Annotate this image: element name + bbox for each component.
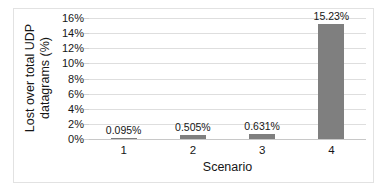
y-axis-tick-mark: [84, 79, 89, 80]
y-axis-tick-mark: [84, 33, 89, 34]
y-axis-tick-mark: [84, 94, 89, 95]
data-label-4: 15.23%: [314, 10, 350, 22]
y-axis-tick-mark: [84, 63, 89, 64]
y-axis-tick-label: 14%: [46, 27, 84, 39]
bar-1: [111, 138, 137, 140]
y-axis-tick-label: 16%: [46, 12, 84, 24]
y-axis-tick-mark: [84, 18, 89, 19]
y-axis-tick-label: 6%: [46, 88, 84, 100]
data-label-2: 0.505%: [175, 121, 211, 133]
y-axis-tick-labels: 0%2%4%6%8%10%12%14%16%: [46, 11, 84, 145]
bar-chart-figure: Lost over total UDP datagrams (%) 0%2%4%…: [0, 0, 387, 196]
bar-2: [180, 135, 206, 139]
y-axis-tick-label: 0%: [46, 133, 84, 145]
bar-3: [249, 134, 275, 139]
plot-area: [89, 18, 366, 139]
y-axis-tick-label: 8%: [46, 73, 84, 85]
x-axis-tick-label: 4: [328, 143, 334, 157]
data-label-1: 0.095%: [106, 124, 142, 136]
y-axis-tick-label: 4%: [46, 103, 84, 115]
x-axis-title: Scenario: [89, 160, 366, 175]
y-axis-tick-label: 12%: [46, 42, 84, 54]
y-axis-tick-mark: [84, 139, 89, 140]
bar-4: [318, 24, 344, 139]
x-axis-tick-label: 1: [120, 143, 126, 157]
y-axis-tick-label: 10%: [46, 57, 84, 69]
data-label-3: 0.631%: [244, 120, 280, 132]
y-axis-tick-mark: [84, 109, 89, 110]
y-axis-title-line-1: Lost over total UDP: [23, 24, 38, 132]
gridline: [89, 139, 366, 140]
y-axis-tick-mark: [84, 48, 89, 49]
x-axis-tick-label: 2: [190, 143, 196, 157]
x-axis-tick-label: 3: [259, 143, 265, 157]
x-axis-tick-labels: 1234: [89, 143, 366, 159]
y-axis-tick-mark: [84, 124, 89, 125]
y-axis-tick-label: 2%: [46, 118, 84, 130]
